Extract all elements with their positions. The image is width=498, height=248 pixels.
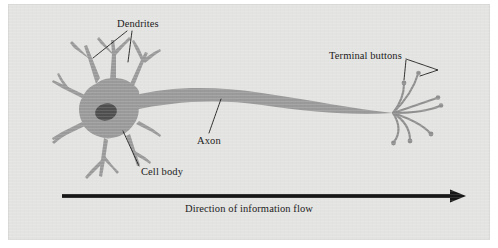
label-dendrites: Dendrites [117, 18, 159, 30]
terminal-buttons-shape [393, 74, 440, 142]
leader-terminal-right [406, 59, 438, 76]
label-terminal-buttons: Terminal buttons [329, 50, 402, 62]
figure-container: Dendrites Terminal buttons Axon Cell bod… [0, 0, 498, 248]
leader-dendrites-right [128, 31, 132, 62]
label-axon: Axon [197, 135, 221, 147]
leader-axon [209, 99, 221, 133]
label-cell-body: Cell body [141, 166, 183, 178]
leader-cell-body [123, 131, 139, 166]
axon-shape [132, 88, 393, 114]
caption-direction-of-information-flow: Direction of information flow [0, 203, 498, 215]
leader-terminal-down [404, 60, 406, 80]
direction-arrow [62, 190, 466, 203]
